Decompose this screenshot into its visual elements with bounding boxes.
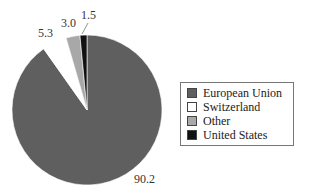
legend-label: Other	[203, 114, 230, 129]
legend-swatch-icon	[187, 130, 197, 140]
legend-item-other: Other	[187, 114, 287, 128]
legend-swatch-icon	[187, 102, 197, 112]
legend-label: Switzerland	[203, 100, 260, 115]
legend-label: United States	[203, 128, 267, 143]
value-label-european-union: 90.2	[134, 172, 155, 187]
legend-swatch-icon	[187, 88, 197, 98]
leader-line	[82, 23, 88, 34]
legend: European Union Switzerland Other United …	[180, 82, 294, 146]
value-label-united-states: 1.5	[81, 8, 96, 23]
value-label-switzerland: 5.3	[38, 26, 53, 41]
value-label-other: 3.0	[61, 16, 76, 31]
legend-item-european-union: European Union	[187, 86, 287, 100]
legend-label: European Union	[203, 86, 282, 101]
legend-swatch-icon	[187, 116, 197, 126]
legend-item-united-states: United States	[187, 128, 287, 142]
legend-item-switzerland: Switzerland	[187, 100, 287, 114]
